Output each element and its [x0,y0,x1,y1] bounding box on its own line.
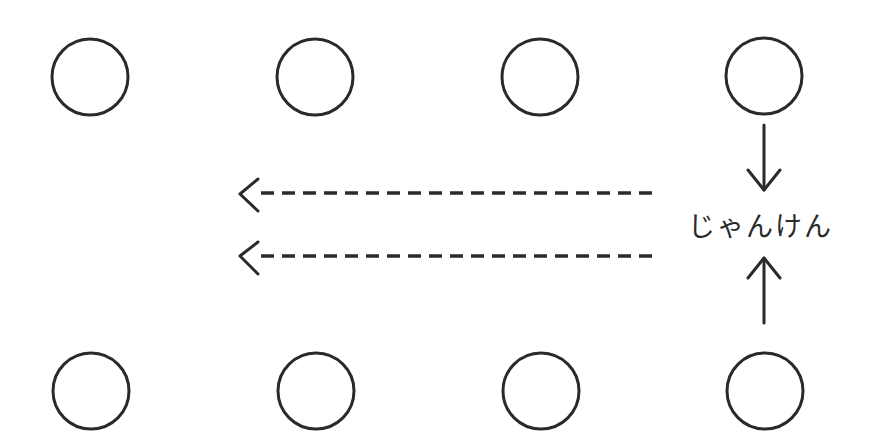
dashed-arrow-left-icon [240,242,652,274]
circle-node [53,353,129,429]
circle-node [277,39,353,115]
circle-node [278,353,354,429]
circle-node [726,38,802,114]
janken-label: じゃんけん [688,213,833,240]
circle-node [502,39,578,115]
dashed-arrow-left-icon [240,179,652,211]
circle-node [503,353,579,429]
circle-node [52,39,128,115]
bottom-row-circles [53,353,803,429]
arrow-up-icon [748,258,780,323]
arrow-down-icon [748,125,780,190]
top-row-circles [52,38,802,115]
circle-node [727,353,803,429]
